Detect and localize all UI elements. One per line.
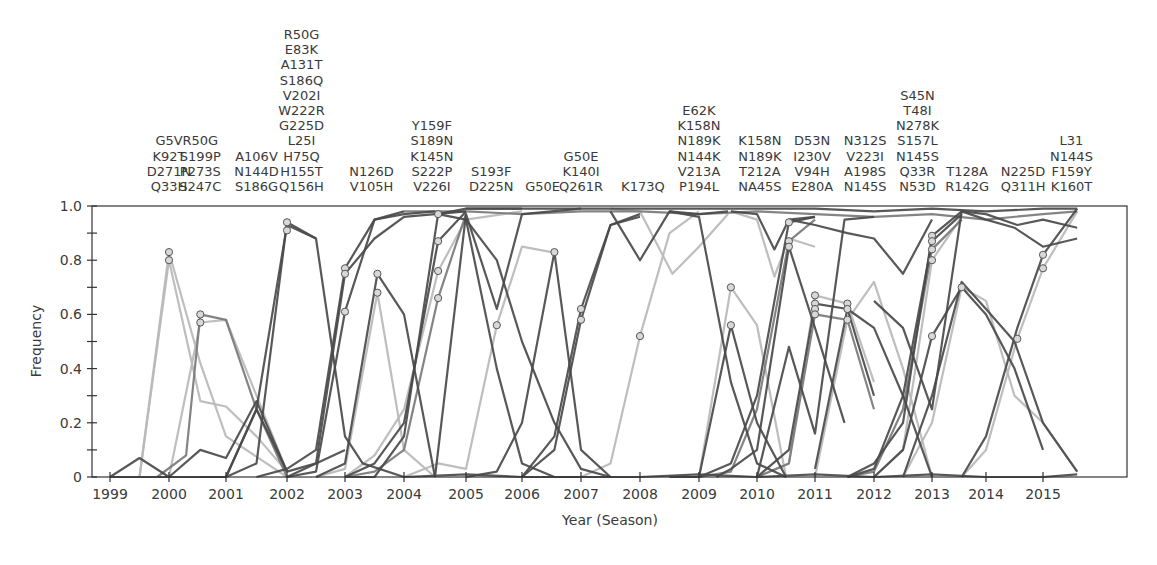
mutation-label-group: K158NN189KT212ANA45S bbox=[738, 133, 782, 194]
series-line-Q311H bbox=[962, 209, 1077, 477]
series-line-K173Q bbox=[581, 211, 699, 477]
mutation-label: N189K bbox=[738, 149, 782, 164]
series-line-R142G bbox=[903, 287, 1077, 477]
mutation-label: H75Q bbox=[283, 149, 320, 164]
peak-marker bbox=[197, 319, 204, 326]
mutation-label-group: G50E bbox=[525, 179, 560, 194]
peak-marker bbox=[811, 311, 818, 318]
peak-marker bbox=[928, 333, 935, 340]
mutation-label: Y159F bbox=[411, 118, 452, 133]
mutation-label: K140I bbox=[562, 164, 599, 179]
mutation-label: Q311H bbox=[1001, 179, 1046, 194]
x-tick-label: 2006 bbox=[504, 486, 540, 502]
mutation-label-group: S45NT48IN278KS157LN145SQ33RN53D bbox=[896, 88, 940, 194]
peak-marker bbox=[1039, 251, 1046, 258]
mutation-label-group: K173Q bbox=[621, 179, 665, 194]
mutation-label: G50E bbox=[564, 149, 599, 164]
mutation-label-group: L31N144SF159YK160T bbox=[1050, 133, 1093, 194]
mutation-label: P194L bbox=[679, 179, 720, 194]
series-line-N189K-2010 bbox=[699, 220, 815, 477]
x-tick-label: 2000 bbox=[151, 486, 187, 502]
mutation-label: N312S bbox=[844, 133, 887, 148]
mutation-label-group: R50GE83KA131TS186QV202IW222RG225DL25IH75… bbox=[278, 27, 325, 194]
series-line-S193F bbox=[435, 209, 581, 477]
x-tick-label: 2001 bbox=[208, 486, 244, 502]
peak-marker bbox=[374, 270, 381, 277]
mutation-label: L25I bbox=[288, 133, 316, 148]
y-tick-label: 1.0 bbox=[60, 198, 82, 214]
mutation-label: N144S bbox=[1050, 149, 1093, 164]
mutation-label: NA45S bbox=[738, 179, 781, 194]
y-tick-label: 0.2 bbox=[60, 415, 82, 431]
mutation-label: E62K bbox=[682, 103, 716, 118]
mutation-label: S157L bbox=[897, 133, 938, 148]
mutation-label: S247C bbox=[179, 179, 221, 194]
mutation-label-group: D53NI230VV94HE280A bbox=[791, 133, 833, 194]
mutation-label: N278K bbox=[896, 118, 940, 133]
x-tick-label: 2004 bbox=[386, 486, 422, 502]
peak-marker bbox=[727, 284, 734, 291]
mutation-label-group: G50EK140IQ261R bbox=[559, 149, 603, 194]
peak-marker bbox=[493, 322, 500, 329]
mutation-label: N126D bbox=[349, 164, 394, 179]
peak-marker bbox=[844, 316, 851, 323]
peak-marker bbox=[844, 305, 851, 312]
mutation-label-group: A106VN144DS186G bbox=[234, 149, 279, 194]
y-tick-label: 0.8 bbox=[60, 252, 82, 268]
series-line-decline-2005 bbox=[438, 214, 581, 477]
series-line-G5V-group bbox=[140, 260, 288, 477]
y-axis-title: Frequency bbox=[28, 305, 44, 377]
series-line-N53D bbox=[874, 287, 1043, 477]
mutation-label-group: N312SV223IA198SN145S bbox=[844, 133, 887, 194]
peak-marker bbox=[435, 211, 442, 218]
mutation-label: S186G bbox=[235, 179, 278, 194]
series-line-decline-2011 bbox=[789, 220, 932, 274]
mutation-label: K160T bbox=[1051, 179, 1092, 194]
mutation-annotations: G5VK92TD271NQ33HR50GS199PP273SS247CA106V… bbox=[147, 27, 1093, 194]
mutation-label-group: E62KK158NN189KN144KV213AP194L bbox=[677, 103, 721, 194]
mutation-label: R50G bbox=[182, 133, 218, 148]
peak-marker bbox=[551, 249, 558, 256]
mutation-label-group: S193FD225N bbox=[469, 164, 514, 194]
x-axis-title: Year (Season) bbox=[561, 512, 658, 528]
mutation-label: K145N bbox=[410, 149, 453, 164]
mutation-label-group: T128AR142G bbox=[945, 164, 989, 194]
peak-marker bbox=[197, 311, 204, 318]
x-tick-label: 2015 bbox=[1025, 486, 1061, 502]
peak-marker bbox=[785, 243, 792, 250]
series-line-N225D bbox=[962, 211, 1077, 477]
mutation-label: S189N bbox=[411, 133, 454, 148]
mutation-label: S193F bbox=[471, 164, 512, 179]
mutation-label: N144K bbox=[677, 149, 721, 164]
peak-marker bbox=[727, 322, 734, 329]
peak-marker bbox=[811, 292, 818, 299]
mutation-label: H155T bbox=[280, 164, 323, 179]
mutation-label: Q156H bbox=[279, 179, 324, 194]
mutation-label: L31 bbox=[1060, 133, 1084, 148]
mutation-label: N189K bbox=[677, 133, 721, 148]
mutation-label: T212A bbox=[738, 164, 781, 179]
mutation-label: G5V bbox=[155, 133, 182, 148]
mutation-label: N144D bbox=[234, 164, 279, 179]
peak-marker bbox=[928, 246, 935, 253]
series-line-decline-2006 bbox=[466, 220, 611, 477]
peak-marker bbox=[785, 219, 792, 226]
series-line-decline-2013 bbox=[874, 211, 1077, 409]
mutation-label: I230V bbox=[793, 149, 831, 164]
peak-marker bbox=[1039, 265, 1046, 272]
mutation-label: E83K bbox=[285, 42, 319, 57]
mutation-label: S199P bbox=[180, 149, 221, 164]
x-tick-label: 2005 bbox=[448, 486, 484, 502]
peak-marker bbox=[435, 295, 442, 302]
x-tick-label: 2007 bbox=[563, 486, 599, 502]
x-tick-label: 2008 bbox=[622, 486, 658, 502]
mutation-label: V94H bbox=[794, 164, 829, 179]
mutation-label: S45N bbox=[900, 88, 935, 103]
y-tick-label: 0.4 bbox=[60, 361, 82, 377]
mutation-label: Q261R bbox=[559, 179, 603, 194]
mutation-label: V105H bbox=[350, 179, 393, 194]
series-line-K158N-2010 bbox=[699, 217, 815, 477]
mutation-label: N53D bbox=[899, 179, 935, 194]
mutation-label: V223I bbox=[846, 149, 884, 164]
peak-marker bbox=[636, 333, 643, 340]
